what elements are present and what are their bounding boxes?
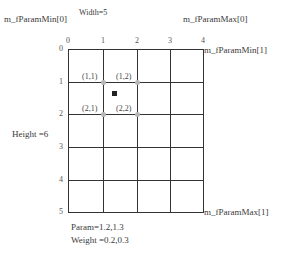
param-max1-label: m_fParamMax[1] <box>204 207 268 217</box>
point-dot-1-2 <box>135 80 140 85</box>
point-label-2-2: (2,2) <box>116 104 131 113</box>
point-label-2-1: (2,1) <box>82 104 97 113</box>
grid-col-line-1 <box>103 49 104 213</box>
point-label-1-1: (1,1) <box>82 72 97 81</box>
grid-col-line-4 <box>203 49 204 213</box>
x-tick-3: 3 <box>168 36 172 45</box>
sample-point-marker <box>112 91 117 96</box>
param-max0-label: m_fParamMax[0] <box>183 14 247 24</box>
y-tick-1: 1 <box>59 77 63 86</box>
x-tick-0: 0 <box>66 36 70 45</box>
grid-row-line-4 <box>68 180 204 181</box>
point-dot-1-1 <box>101 80 106 85</box>
x-tick-2: 2 <box>135 36 139 45</box>
grid-col-line-0 <box>68 49 69 213</box>
grid-col-line-2 <box>137 49 138 213</box>
x-tick-4: 4 <box>201 36 205 45</box>
y-tick-5: 5 <box>59 207 63 216</box>
grid-col-line-3 <box>170 49 171 213</box>
param-min1-label: m_fParamMin[1] <box>204 45 267 55</box>
grid-row-line-5 <box>68 212 204 213</box>
width-label: Width=5 <box>79 8 107 18</box>
grid-row-line-3 <box>68 147 204 148</box>
param-min0-label: m_fParamMin[0] <box>4 14 67 24</box>
weight-label: Weight =0.2,0.3 <box>71 235 129 245</box>
point-dot-2-1 <box>101 112 106 117</box>
y-tick-3: 3 <box>59 142 63 151</box>
point-label-1-2: (1,2) <box>116 72 131 81</box>
height-label: Height =6 <box>12 129 48 139</box>
y-tick-0: 0 <box>59 44 63 53</box>
grid-row-line-0 <box>68 49 204 50</box>
param-label: Param=1.2,1.3 <box>71 222 124 232</box>
point-dot-2-2 <box>135 112 140 117</box>
y-tick-4: 4 <box>59 175 63 184</box>
x-tick-1: 1 <box>101 36 105 45</box>
y-tick-2: 2 <box>59 109 63 118</box>
